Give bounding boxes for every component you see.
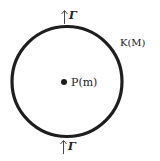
- ring-label: K(M): [120, 37, 146, 48]
- center-label: P(m): [71, 76, 97, 89]
- bottom-arrow-icon: [61, 141, 67, 155]
- center-point: [61, 79, 67, 85]
- bottom-label: Γ: [67, 140, 77, 153]
- top-arrow-icon: [62, 11, 68, 25]
- top-label: Γ: [68, 9, 78, 22]
- ring-circle: [12, 27, 122, 137]
- diagram-canvas: P(m) K(M) Γ Γ: [0, 0, 160, 161]
